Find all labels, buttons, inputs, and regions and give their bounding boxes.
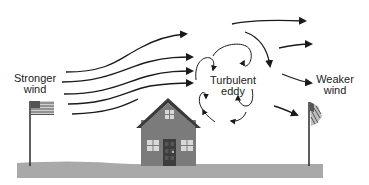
right-flag-cloth xyxy=(310,102,322,126)
weaker-wind-label: Weaker wind xyxy=(310,74,360,96)
wind-arrow xyxy=(245,32,270,66)
door xyxy=(163,139,176,166)
house xyxy=(136,98,201,166)
left-flag xyxy=(30,101,54,166)
stronger-wind-arrows xyxy=(62,34,192,114)
wind-arrow xyxy=(64,71,192,94)
wind-turbulence-diagram: Stronger wind Turbulent eddy Weaker wind xyxy=(0,0,369,185)
turbulent-eddy-label: Turbulent eddy xyxy=(203,75,263,97)
wind-arrow xyxy=(282,74,311,83)
wind-arrow xyxy=(66,34,186,72)
wind-arrow xyxy=(62,57,192,82)
right-window xyxy=(181,140,193,151)
left-flag-cloth xyxy=(31,101,54,115)
attic-window xyxy=(165,110,174,119)
wind-arrow xyxy=(279,44,311,48)
right-flag xyxy=(309,102,322,166)
wind-arrow xyxy=(274,106,297,115)
wind-arrow xyxy=(68,83,192,104)
eddy-arrow xyxy=(213,44,251,66)
left-window xyxy=(147,140,159,151)
wind-arrow xyxy=(72,99,138,114)
weaker-wind-arrows xyxy=(232,20,311,115)
wind-arrow xyxy=(232,20,305,24)
eddy-arrow xyxy=(231,112,246,121)
stronger-wind-label: Stronger wind xyxy=(5,73,65,95)
